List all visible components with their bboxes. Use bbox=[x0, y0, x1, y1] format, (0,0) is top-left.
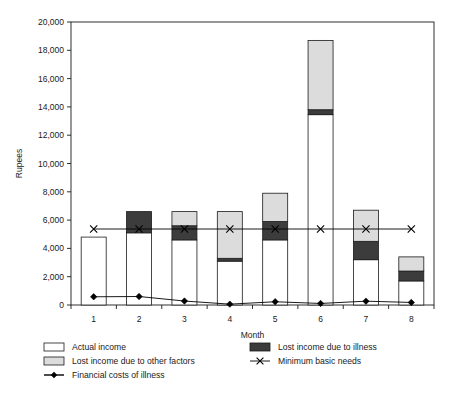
y-axis: 02,0004,0006,0008,00010,00012,00014,0001… bbox=[14, 17, 71, 310]
y-tick-label: 2,000 bbox=[43, 272, 65, 282]
legend-item-label: Actual income bbox=[72, 342, 126, 352]
bar-segment bbox=[263, 240, 288, 305]
x-tick-label: 3 bbox=[182, 314, 187, 324]
bar-segment bbox=[172, 212, 197, 226]
y-tick-label: 16,000 bbox=[38, 74, 64, 84]
legend-item: Financial costs of illness bbox=[44, 370, 165, 380]
y-tick-label: 18,000 bbox=[38, 45, 64, 55]
x-tick-label: 6 bbox=[318, 314, 323, 324]
x-tick-label: 7 bbox=[364, 314, 369, 324]
bar-segment bbox=[308, 40, 333, 109]
legend-item-label: Minimum basic needs bbox=[278, 356, 361, 366]
y-axis-title: Rupees bbox=[14, 149, 24, 178]
chart-root: 02,0004,0006,0008,00010,00012,00014,0001… bbox=[14, 17, 434, 380]
legend-swatch-box bbox=[250, 343, 270, 351]
bar-stack bbox=[399, 257, 424, 305]
x-tick-label: 8 bbox=[409, 314, 414, 324]
bar-segment bbox=[217, 258, 242, 261]
x-tick-label: 4 bbox=[227, 314, 232, 324]
y-tick-label: 20,000 bbox=[38, 17, 64, 27]
bar-segment bbox=[217, 212, 242, 259]
bar-segment bbox=[172, 240, 197, 305]
y-tick-label: 10,000 bbox=[38, 159, 64, 169]
bar-segment bbox=[399, 257, 424, 271]
bar-stack bbox=[353, 210, 378, 305]
y-tick-label: 14,000 bbox=[38, 102, 64, 112]
bar-stack bbox=[308, 40, 333, 305]
bar-stack bbox=[263, 193, 288, 305]
x-tick-label: 1 bbox=[91, 314, 96, 324]
y-tick-label: 8,000 bbox=[43, 187, 65, 197]
y-tick-label: 0 bbox=[59, 300, 64, 310]
legend-item: Actual income bbox=[44, 342, 126, 352]
plot-frame bbox=[71, 22, 434, 305]
bar-segment bbox=[263, 222, 288, 240]
y-tick-label: 4,000 bbox=[43, 243, 65, 253]
bar-segment bbox=[308, 115, 333, 305]
y-tick-label: 6,000 bbox=[43, 215, 65, 225]
bar-segment bbox=[353, 241, 378, 259]
chart-figure: 02,0004,0006,0008,00010,00012,00014,0001… bbox=[0, 0, 449, 395]
legend-item: Lost income due to other factors bbox=[44, 356, 195, 366]
legend-item: Lost income due to illness bbox=[250, 342, 377, 352]
legend-swatch-box bbox=[44, 343, 64, 351]
y-tick-label: 12,000 bbox=[38, 130, 64, 140]
bar-segment bbox=[263, 193, 288, 221]
bar-stack bbox=[127, 212, 152, 305]
x-tick-label: 2 bbox=[137, 314, 142, 324]
legend-marker-diamond bbox=[51, 372, 57, 378]
bar-segment bbox=[172, 226, 197, 240]
bar-segment bbox=[217, 261, 242, 305]
stacked-bar-chart: 02,0004,0006,0008,00010,00012,00014,0001… bbox=[0, 0, 449, 395]
legend-item-label: Lost income due to other factors bbox=[72, 356, 195, 366]
x-axis: 12345678Month bbox=[71, 305, 434, 340]
bar-stack bbox=[217, 212, 242, 305]
bar-segment bbox=[353, 210, 378, 241]
bar-segment bbox=[308, 110, 333, 115]
x-axis-title: Month bbox=[241, 330, 265, 340]
bar-segment bbox=[399, 271, 424, 281]
x-tick-label: 5 bbox=[273, 314, 278, 324]
legend: Actual incomeLost income due to other fa… bbox=[44, 342, 377, 380]
legend-item-label: Lost income due to illness bbox=[278, 342, 377, 352]
bar-stack bbox=[172, 212, 197, 305]
legend-swatch-box bbox=[44, 357, 64, 365]
legend-item-label: Financial costs of illness bbox=[72, 370, 165, 380]
legend-item: Minimum basic needs bbox=[250, 356, 361, 366]
